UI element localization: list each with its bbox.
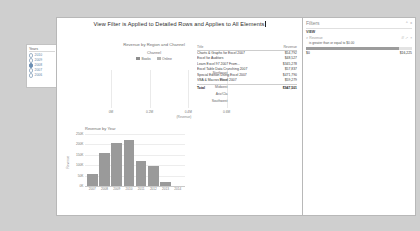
cell-title: Excel Table Data Crunching 2007 xyxy=(197,67,271,71)
filter-field-label: Revenue xyxy=(309,36,323,40)
text-cursor xyxy=(265,21,266,27)
range-min-value[interactable]: $0 xyxy=(306,51,310,55)
table-row[interactable]: Excel for Auditors $48,527 xyxy=(197,56,297,62)
year-filter-header: Years xyxy=(27,45,57,51)
radio-icon[interactable] xyxy=(29,73,33,77)
cell-title: Excel for Auditors xyxy=(197,56,271,60)
filter-range-slider[interactable] xyxy=(306,47,412,50)
region-chart-xaxis: 0M 0.2M 0.4M 0.6M (Revenue) xyxy=(111,110,227,117)
cell-revenue: $54,792 xyxy=(271,51,297,55)
region-bar-row[interactable]: Southwest xyxy=(79,99,229,104)
year-chart-yaxis: 250K 200K 150K 100K 50K 0K Revenue xyxy=(71,134,85,186)
year-chart-bars[interactable] xyxy=(85,134,185,186)
cell-title: Learn Excel 97 2007 From... xyxy=(197,62,271,66)
x-tick: 0M xyxy=(109,110,113,114)
filter-field-name[interactable]: ▾ Revenue xyxy=(306,36,323,40)
page-title: View Filter is Applied to Detailed Rows … xyxy=(57,21,302,27)
filters-panel-header: Filters ^ x xyxy=(303,18,415,26)
x-tick: 0.2M xyxy=(146,110,153,114)
collapse-icon[interactable]: ^ xyxy=(406,21,408,25)
cell-revenue: $345,278 xyxy=(271,62,297,66)
year-bar[interactable] xyxy=(136,161,147,186)
year-filter-divider xyxy=(29,51,55,52)
year-bar[interactable] xyxy=(111,143,122,186)
filter-card-actions[interactable]: ☰ ↗ × xyxy=(401,36,412,40)
year-filter-label: 2006 xyxy=(35,73,43,77)
radio-icon[interactable] xyxy=(29,53,33,57)
year-chart-title: Revenue by Year xyxy=(71,126,221,131)
year-filter-item-2006[interactable]: 2006 xyxy=(27,73,57,78)
column-header-title[interactable]: Title xyxy=(197,45,271,49)
year-bar[interactable] xyxy=(148,166,159,186)
legend-swatch-icon xyxy=(157,57,161,60)
region-label: Southwest xyxy=(198,99,230,103)
total-label: Total xyxy=(197,86,271,90)
legend-swatch-icon xyxy=(136,57,140,60)
year-filter-label: 2009 xyxy=(35,58,43,62)
table-row[interactable]: Learn Excel 97 2007 From... $345,278 xyxy=(197,61,297,67)
y-tick: 50K xyxy=(78,174,84,178)
table-row[interactable]: Charts & Graphs for Excel 2007 $54,792 xyxy=(197,50,297,56)
y-tick: 200K xyxy=(76,142,83,146)
x-tick: 2011 xyxy=(136,187,147,191)
menu-icon[interactable]: ☰ xyxy=(401,36,404,40)
table-row[interactable]: Special Edition Using Excel 2007 $471,79… xyxy=(197,72,297,78)
y-tick: 250K xyxy=(76,132,83,136)
cell-revenue: $48,527 xyxy=(271,56,297,60)
legend-label: Online xyxy=(162,57,172,61)
table-row[interactable]: Excel Table Data Crunching 2007 $57,837 xyxy=(197,67,297,73)
year-bar[interactable] xyxy=(99,153,110,186)
x-axis-title: (Revenue) xyxy=(143,115,225,119)
table-row[interactable]: VBA & Macros Excel 2007 $59,279 xyxy=(197,78,297,84)
cell-revenue: $59,279 xyxy=(271,78,297,82)
radio-icon[interactable] xyxy=(29,58,33,62)
table-header-row: Title Revenue xyxy=(197,45,297,50)
year-bar[interactable] xyxy=(87,174,98,186)
dashboard-canvas: View Filter is Applied to Detailed Rows … xyxy=(56,17,303,216)
x-tick: 2008 xyxy=(99,187,110,191)
chevron-down-icon[interactable]: ▾ xyxy=(306,36,308,40)
cell-title: Special Edition Using Excel 2007 xyxy=(197,73,271,77)
close-icon[interactable]: x xyxy=(410,21,412,25)
filter-range-values: $0 $16,225 xyxy=(306,51,412,55)
year-filter-label: 2010 xyxy=(35,53,43,57)
y-tick: 150K xyxy=(76,153,83,157)
revenue-by-year-chart[interactable]: Revenue by Year 250K 200K 150K 100K 50K … xyxy=(71,126,221,210)
cell-title: Charts & Graphs for Excel 2007 xyxy=(197,51,271,55)
x-tick: 2009 xyxy=(111,187,122,191)
legend-item-books[interactable]: Books xyxy=(136,57,151,61)
y-axis-title: Revenue xyxy=(66,156,70,169)
x-tick: 2010 xyxy=(124,187,135,191)
table-total-row: Total $947,501 xyxy=(197,84,297,90)
filters-panel-controls[interactable]: ^ x xyxy=(406,21,412,25)
legend-item-online[interactable]: Online xyxy=(157,57,172,61)
legend-label: Books xyxy=(141,57,150,61)
year-filter-label: 2008 xyxy=(35,63,43,67)
slider-fill[interactable] xyxy=(306,47,399,50)
detail-table[interactable]: Title Revenue Charts & Graphs for Excel … xyxy=(197,45,297,90)
year-bar[interactable] xyxy=(160,182,171,186)
x-tick: 2007 xyxy=(87,187,98,191)
year-chart-xaxis: 2007 2008 2009 2010 2011 2012 2013 2014 xyxy=(85,187,185,191)
expand-icon[interactable]: ↗ xyxy=(405,36,408,40)
filters-panel[interactable]: Filters ^ x VIEW ▾ Revenue ☰ ↗ × is grea… xyxy=(302,17,416,216)
cell-title: VBA & Macros Excel 2007 xyxy=(197,78,271,82)
filters-panel-title: Filters xyxy=(306,20,320,26)
year-bar[interactable] xyxy=(124,140,135,186)
y-tick: 0K xyxy=(80,184,84,188)
y-tick: 100K xyxy=(76,163,83,167)
radio-icon[interactable] xyxy=(29,63,33,67)
radio-icon[interactable] xyxy=(29,68,33,72)
region-label: Ariz/Cla xyxy=(198,92,230,96)
year-filter-label: 2007 xyxy=(35,68,43,72)
filters-section-label: VIEW xyxy=(303,28,415,34)
column-header-revenue[interactable]: Revenue xyxy=(271,45,297,49)
x-tick: 2014 xyxy=(172,187,183,191)
year-filter-card[interactable]: Years 2010 2009 2008 2007 2006 xyxy=(26,44,58,88)
region-bar-row[interactable]: Ariz/Cla xyxy=(79,92,229,97)
filter-card-revenue[interactable]: ▾ Revenue ☰ ↗ × is greater than or equal… xyxy=(306,36,412,45)
x-tick: 0.4M xyxy=(185,110,192,114)
range-max-value[interactable]: $16,225 xyxy=(400,51,412,55)
remove-icon[interactable]: × xyxy=(410,36,412,40)
x-tick: 0.6M xyxy=(223,110,230,114)
